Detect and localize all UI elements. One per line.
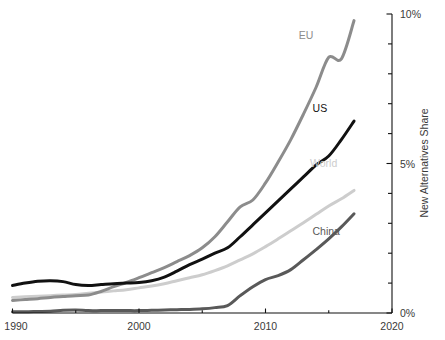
x-axis-tick-label: 2010 bbox=[254, 320, 278, 332]
series-label-us: US bbox=[313, 102, 328, 114]
series-labels-group: EUUSWorldChina bbox=[299, 29, 340, 236]
y-axis-tick-label: 10% bbox=[400, 8, 421, 20]
series-label-world: World bbox=[310, 157, 337, 169]
x-axis-tick-label: 1990 bbox=[4, 320, 28, 332]
y-axis-tick-label: 0% bbox=[400, 307, 415, 319]
series-label-eu: EU bbox=[299, 29, 314, 41]
chart-container: 19902000201020200%5%10% EUUSWorldChina N… bbox=[0, 0, 445, 340]
x-axis-tick-label: 2020 bbox=[380, 320, 404, 332]
y-axis-tick-label: 5% bbox=[400, 158, 415, 170]
line-chart: 19902000201020200%5%10% EUUSWorldChina N… bbox=[0, 0, 445, 340]
y-axis-title: New Alternatives Share bbox=[418, 108, 430, 217]
x-axis-tick-label: 2000 bbox=[127, 320, 151, 332]
series-label-china: China bbox=[313, 225, 341, 237]
series-group bbox=[13, 21, 355, 312]
